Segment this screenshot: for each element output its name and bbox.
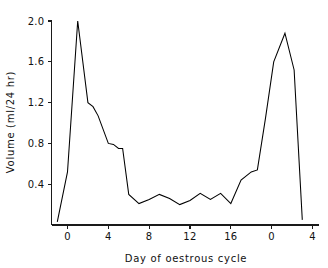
x-tick-label: 0 <box>268 231 275 242</box>
y-axis-title: Volume (ml/24 hr) <box>5 71 16 173</box>
y-tick-label: 0.8 <box>28 138 45 149</box>
x-tick-label: 0 <box>64 231 71 242</box>
chart-figure: 0.40.81.21.62.0 048121604 Day of oestrou… <box>0 0 328 268</box>
x-tick-label: 12 <box>183 231 196 242</box>
y-tick-label: 1.6 <box>28 56 45 67</box>
x-tick-label: 8 <box>146 231 153 242</box>
x-tick-label: 4 <box>309 231 316 242</box>
x-tick-label: 16 <box>224 231 237 242</box>
chart-canvas: 0.40.81.21.62.0 048121604 Day of oestrou… <box>0 0 328 268</box>
chart-background <box>0 0 328 268</box>
x-axis-title: Day of oestrous cycle <box>125 253 247 264</box>
y-tick-label: 2.0 <box>28 16 45 27</box>
x-tick-label: 4 <box>105 231 112 242</box>
y-tick-label: 0.4 <box>28 179 45 190</box>
y-tick-label: 1.2 <box>28 97 45 108</box>
